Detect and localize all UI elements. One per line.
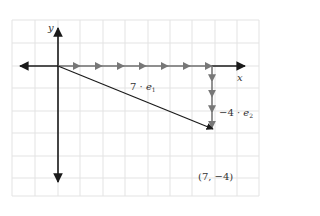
vector-7e1-sub: 1: [152, 86, 156, 93]
vector-7e1-coef: 7 ·: [130, 81, 146, 92]
vector-neg4e2-coef: −4 ·: [219, 107, 243, 118]
point-label: (7, −4): [198, 172, 233, 182]
resultant-vector: [58, 66, 213, 129]
vector-neg4e2-sub: 2: [249, 112, 253, 119]
x-axis-label: x: [237, 73, 243, 83]
vector-neg4e2-label: −4 · e2: [219, 108, 253, 119]
y-axis-label: y: [48, 23, 54, 33]
vector-7e1-label: 7 · e1: [130, 82, 156, 93]
